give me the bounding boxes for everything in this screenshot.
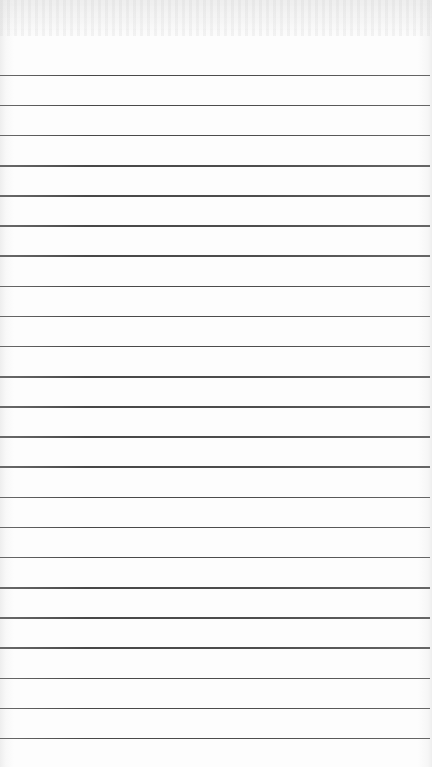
ruled-line	[0, 165, 430, 167]
ruled-line	[0, 647, 430, 649]
ruled-line	[0, 708, 430, 710]
ruled-line	[0, 436, 430, 438]
ruled-line	[0, 316, 430, 318]
ruled-line	[0, 286, 430, 288]
faint-bleed-through-header	[0, 0, 432, 36]
ruled-line	[0, 75, 430, 77]
ruled-line	[0, 466, 430, 468]
ruled-line	[0, 406, 430, 408]
ruled-line	[0, 557, 430, 559]
ruled-line	[0, 527, 430, 529]
ruled-line	[0, 376, 430, 378]
ruled-line	[0, 617, 430, 619]
ruled-line	[0, 346, 430, 348]
ruled-line	[0, 135, 430, 137]
ruled-line	[0, 195, 430, 197]
ruled-line	[0, 678, 430, 680]
ruled-line	[0, 225, 430, 227]
ruled-line	[0, 497, 430, 499]
ruled-line	[0, 105, 430, 107]
ruled-line	[0, 738, 430, 740]
ruled-line	[0, 587, 430, 589]
ruled-line	[0, 255, 430, 257]
lined-paper-page	[0, 0, 432, 767]
